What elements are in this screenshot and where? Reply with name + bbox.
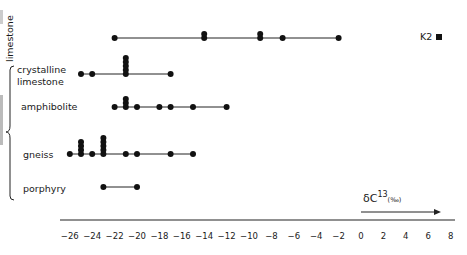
x-tick-label: −22: [106, 231, 124, 241]
label-amphibolite: amphibolite: [21, 101, 77, 112]
arrow-head-icon: [434, 209, 441, 215]
label-porphyry: porphyry: [23, 183, 66, 194]
data-point: [123, 55, 129, 61]
data-point: [190, 104, 196, 110]
k2-square-marker: [436, 34, 442, 40]
data-point: [78, 139, 84, 145]
data-point: [89, 71, 95, 77]
data-point: [156, 104, 162, 110]
label-crystalline: crystalline: [17, 64, 66, 75]
x-tick-label: −18: [150, 231, 168, 241]
label-k2: K2: [420, 31, 432, 42]
data-point: [201, 31, 207, 37]
data-point: [257, 31, 263, 37]
x-tick-label: −12: [218, 231, 236, 241]
data-point: [224, 104, 230, 110]
x-tick-label: 4: [403, 231, 408, 241]
x-tick-label: −2: [332, 231, 345, 241]
x-axis-title: δC13(‰): [363, 190, 401, 205]
data-point: [100, 184, 106, 190]
axis-symbol: δC: [363, 192, 377, 205]
data-point: [67, 151, 73, 157]
x-tick-label: −8: [265, 231, 278, 241]
data-point: [336, 35, 342, 41]
faint-side-mark: [0, 10, 3, 24]
chart-canvas: [0, 0, 467, 255]
data-point: [168, 104, 174, 110]
x-tick-label: −16: [173, 231, 191, 241]
x-tick-label: 6: [425, 231, 430, 241]
x-tick-label: −20: [128, 231, 146, 241]
label-limestone: limestone: [4, 15, 15, 62]
data-point: [123, 151, 129, 157]
label-crystalline-limestone: limestone: [17, 76, 64, 87]
x-tick-label: 2: [381, 231, 386, 241]
data-point: [134, 104, 140, 110]
data-point: [89, 151, 95, 157]
data-point: [112, 104, 118, 110]
data-point: [280, 35, 286, 41]
label-gneiss: gneiss: [23, 149, 53, 160]
data-point: [134, 151, 140, 157]
x-tick-label: −24: [83, 231, 101, 241]
data-point: [78, 71, 84, 77]
data-point: [123, 96, 129, 102]
data-point: [134, 184, 140, 190]
x-tick-label: 8: [448, 231, 453, 241]
axis-superscript: 13: [377, 190, 387, 199]
x-tick-label: −10: [240, 231, 258, 241]
x-tick-label: 0: [358, 231, 363, 241]
data-point: [168, 151, 174, 157]
data-point: [168, 71, 174, 77]
axis-unit: (‰): [388, 196, 402, 204]
group-brace: [6, 66, 14, 200]
data-point: [190, 151, 196, 157]
x-tick-label: −6: [288, 231, 301, 241]
data-point: [112, 35, 118, 41]
x-tick-label: −14: [195, 231, 213, 241]
x-tick-label: −26: [61, 231, 79, 241]
faint-side-label: [0, 95, 3, 145]
data-point: [100, 135, 106, 141]
x-tick-label: −4: [310, 231, 323, 241]
